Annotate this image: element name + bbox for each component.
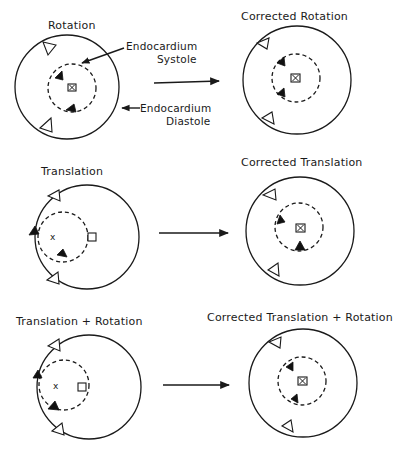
filled-triangle-marker-upper [33, 370, 42, 378]
correction-arrow-rotation [154, 81, 219, 83]
panel-title-translation: Translation [40, 165, 103, 178]
open-triangle-marker-lower [40, 118, 52, 132]
open-triangle-marker-lower [47, 272, 59, 284]
systole-center-x-mark: x [50, 232, 56, 242]
filled-triangle-marker-lower [291, 394, 298, 403]
center-marker-x-in-square [298, 377, 307, 385]
filled-triangle-marker-upper [286, 362, 293, 371]
panel-corrected-rotation: Corrected Rotation [241, 10, 351, 134]
endocardium-diastole-circle [15, 35, 119, 139]
center-marker-x-in-square [68, 84, 76, 91]
open-triangle-marker-upper [43, 42, 56, 55]
center-marker-x-in-square [291, 74, 300, 82]
open-triangle-marker-upper [269, 337, 281, 348]
panel-translation: Translation x [29, 165, 139, 289]
filled-triangle-marker-lower [295, 241, 305, 250]
open-triangle-marker-lower [282, 420, 293, 432]
panel-translation-rotation: Translation + Rotation x [15, 315, 143, 439]
systole-center-x-mark: x [53, 381, 59, 391]
panel-title-corrected-translation-rotation: Corrected Translation + Rotation [207, 311, 393, 324]
label-endocardium-diastole-1: Endocardium [140, 102, 211, 114]
center-marker-x-in-square [296, 224, 305, 232]
label-endocardium-systole-1: Endocardium [126, 40, 197, 52]
open-triangle-marker-upper [48, 190, 60, 201]
label-endocardium-diastole-2: Diastole [166, 115, 210, 127]
filled-triangle-marker-lower [66, 104, 76, 112]
label-endocardium-systole-2: Systole [157, 53, 197, 65]
diastole-center-square-mark [78, 383, 86, 391]
panel-rotation: Rotation Endocardium Systole Endocardium… [15, 19, 211, 139]
filled-triangle-marker-upper [55, 71, 63, 80]
filled-triangle-marker-lower [277, 88, 285, 97]
filled-triangle-marker-lower [57, 249, 67, 257]
open-triangle-marker-lower [268, 263, 279, 276]
panel-corrected-translation: Corrected Translation [241, 156, 363, 285]
panel-title-translation-rotation: Translation + Rotation [15, 315, 143, 328]
open-triangle-marker-upper [257, 38, 269, 49]
filled-triangle-marker-upper [277, 57, 285, 66]
panel-title-rotation: Rotation [48, 19, 96, 32]
filled-triangle-marker-left [29, 226, 39, 235]
motion-correction-diagram: Rotation Endocardium Systole Endocardium… [0, 0, 410, 451]
filled-triangle-marker-lower [48, 401, 59, 410]
panel-corrected-translation-rotation: Corrected Translation + Rotation [207, 311, 393, 437]
panel-title-corrected-translation: Corrected Translation [241, 156, 363, 169]
panel-title-corrected-rotation: Corrected Rotation [241, 10, 348, 23]
diastole-center-square-mark [88, 233, 96, 241]
